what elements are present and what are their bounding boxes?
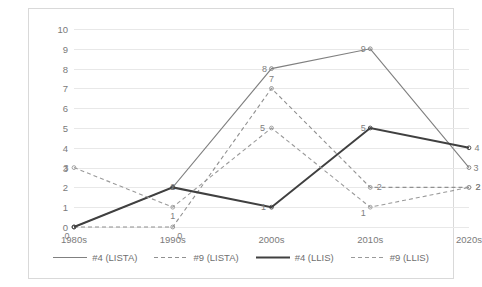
data-label: 8 — [262, 64, 267, 74]
legend-item-3[interactable]: #4 (LLIS) — [256, 252, 334, 263]
chart-frame: 012345678910 1980s1990s2000s2010s2020s 8… — [28, 8, 454, 279]
y-tick-label: 6 — [63, 103, 68, 114]
y-tick-label: 8 — [63, 63, 68, 74]
legend-label: #9 (LISTA) — [193, 252, 238, 263]
series-3 — [72, 126, 471, 229]
data-label: 2 — [475, 182, 480, 192]
y-tick-label: 4 — [63, 142, 68, 153]
series-lines — [74, 29, 469, 227]
data-label: 5 — [260, 123, 265, 133]
legend-line-swatch — [53, 253, 87, 262]
data-label: 7 — [269, 74, 274, 84]
series-line — [74, 128, 469, 207]
y-tick-label: 5 — [63, 123, 68, 134]
series-4 — [72, 126, 471, 209]
legend-label: #9 (LLIS) — [390, 252, 429, 263]
y-tick-label: 7 — [63, 83, 68, 94]
legend-label: #4 (LISTA) — [92, 252, 137, 263]
legend-item-1[interactable]: #4 (LISTA) — [53, 252, 137, 263]
x-tick-label: 2020s — [456, 234, 482, 245]
y-tick-label: 2 — [63, 182, 68, 193]
data-label: 3 — [473, 163, 478, 173]
legend-line-swatch — [351, 253, 385, 262]
data-label: 0 — [64, 231, 69, 241]
y-tick-label: 1 — [63, 202, 68, 213]
plot-area: 012345678910 1980s1990s2000s2010s2020s 8… — [74, 29, 469, 227]
series-line — [74, 128, 469, 227]
legend-item-4[interactable]: #9 (LLIS) — [351, 252, 429, 263]
data-label: 1 — [261, 202, 266, 212]
legend-label: #4 (LLIS) — [295, 252, 334, 263]
data-label: 1 — [170, 211, 175, 221]
data-label: 0 — [177, 231, 182, 241]
chart-legend: #4 (LISTA)#9 (LISTA)#4 (LLIS)#9 (LLIS) — [29, 252, 453, 263]
data-label: 2 — [170, 182, 175, 192]
data-label: 5 — [361, 123, 366, 133]
x-tick-label: 2000s — [259, 234, 285, 245]
data-label: 9 — [361, 44, 366, 54]
y-tick-label: 10 — [57, 24, 68, 35]
legend-item-2[interactable]: #9 (LISTA) — [154, 252, 238, 263]
y-tick-label: 9 — [63, 43, 68, 54]
data-label: 3 — [63, 163, 68, 173]
legend-line-swatch — [154, 253, 188, 262]
x-tick-label: 2010s — [357, 234, 383, 245]
data-label: 4 — [474, 143, 479, 153]
data-label: 1 — [361, 208, 366, 218]
data-label: 2 — [377, 182, 382, 192]
legend-line-swatch — [256, 253, 290, 262]
